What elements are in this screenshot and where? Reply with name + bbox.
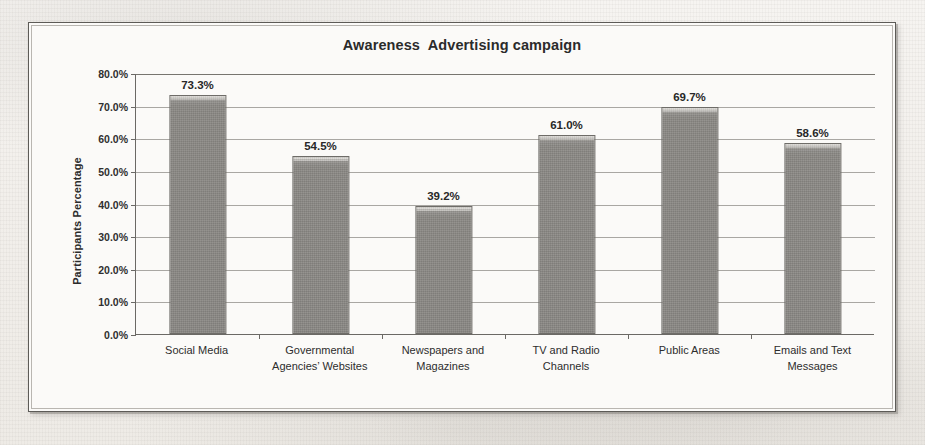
bar-slot: 54.5% <box>259 74 382 334</box>
bar[interactable]: 73.3% <box>169 95 226 334</box>
y-axis-tick-label: 10.0% <box>98 296 128 308</box>
y-axis-tick-label: 70.0% <box>98 101 128 113</box>
y-axis-title: Participants Percentage <box>71 121 83 321</box>
y-axis-tick-label: 20.0% <box>98 264 128 276</box>
bar[interactable]: 69.7% <box>661 107 718 334</box>
bar-value-label: 39.2% <box>427 190 460 202</box>
x-axis-tick-mark <box>628 334 629 339</box>
x-axis-category-label: Emails and Text Messages <box>751 343 874 374</box>
bar-slot: 73.3% <box>136 74 259 334</box>
plot-area: 0.0%10.0%20.0%30.0%40.0%50.0%60.0%70.0%8… <box>135 74 874 335</box>
x-axis-category-label: Newspapers and Magazines <box>381 343 504 374</box>
bar[interactable]: 39.2% <box>415 206 472 334</box>
y-axis-tick-label: 60.0% <box>98 133 128 145</box>
x-axis-tick-mark <box>382 334 383 339</box>
x-axis-category-label: Social Media <box>135 343 258 374</box>
bar[interactable]: 54.5% <box>292 156 349 334</box>
x-axis-category-label: Public Areas <box>628 343 751 374</box>
x-axis-tick-mark <box>259 334 260 339</box>
bar-slot: 58.6% <box>751 74 874 334</box>
bar-slot: 69.7% <box>628 74 751 334</box>
x-axis-tick-mark <box>505 334 506 339</box>
x-axis-category-labels: Social MediaGovernmental Agencies’ Websi… <box>135 343 874 374</box>
bar-value-label: 61.0% <box>550 119 583 131</box>
bar-value-label: 54.5% <box>304 140 337 152</box>
bar-value-label: 69.7% <box>673 91 706 103</box>
bar-slot: 39.2% <box>382 74 505 334</box>
chart-figure-frame: Awareness Advertising campaign Participa… <box>28 22 896 412</box>
x-axis-category-label: Governmental Agencies’ Websites <box>258 343 381 374</box>
bar[interactable]: 61.0% <box>538 135 595 334</box>
y-axis-tick-label: 30.0% <box>98 231 128 243</box>
chart-title: Awareness Advertising campaign <box>29 37 895 53</box>
y-axis-tick-mark <box>131 335 136 336</box>
y-axis-tick-label: 0.0% <box>104 329 128 341</box>
bar-value-label: 58.6% <box>796 127 829 139</box>
bars-layer: 73.3%54.5%39.2%61.0%69.7%58.6% <box>136 74 874 334</box>
bar[interactable]: 58.6% <box>784 143 841 334</box>
x-axis-category-label: TV and Radio Channels <box>505 343 628 374</box>
bar-value-label: 73.3% <box>181 79 214 91</box>
y-axis-tick-label: 80.0% <box>98 68 128 80</box>
bar-slot: 61.0% <box>505 74 628 334</box>
y-axis-tick-label: 50.0% <box>98 166 128 178</box>
y-axis-tick-label: 40.0% <box>98 199 128 211</box>
x-axis-tick-mark <box>751 334 752 339</box>
